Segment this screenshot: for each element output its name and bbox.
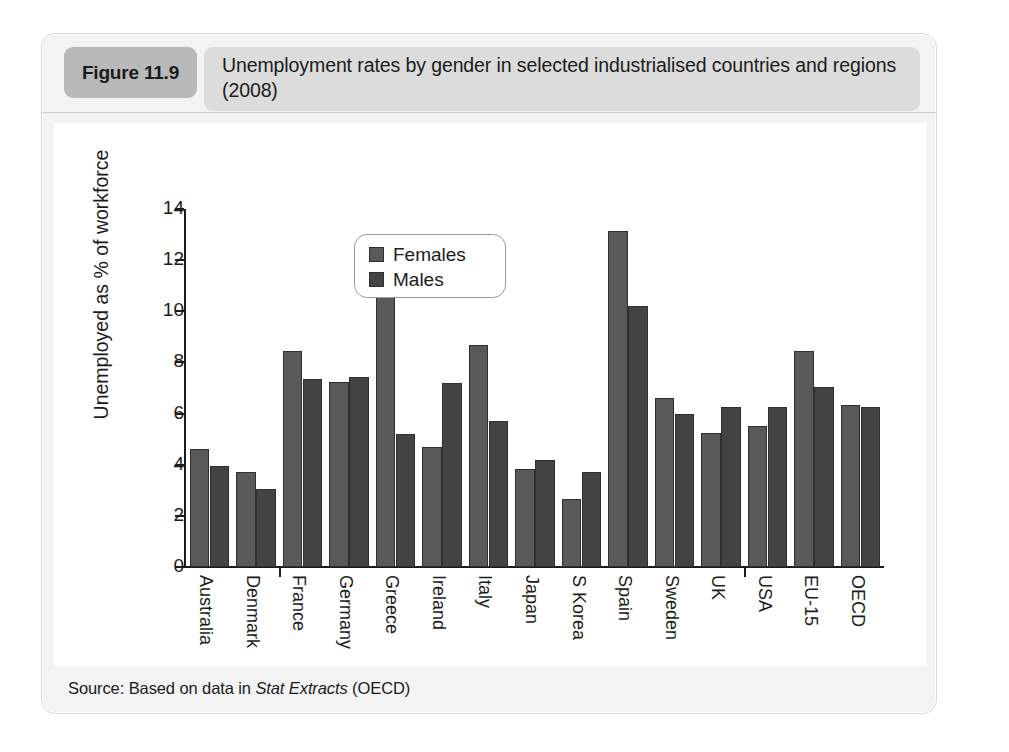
bar-male-greece [396, 434, 416, 567]
x-axis-label-ireland: Ireland [428, 575, 449, 630]
bar-male-sweden [675, 414, 695, 567]
legend-item-females: Females [369, 242, 505, 267]
bar-male-italy [489, 421, 509, 567]
bar-female-denmark [236, 472, 256, 567]
chart-legend: Females Males [354, 234, 506, 298]
bar-female-eu-15 [794, 351, 814, 567]
legend-item-males: Males [369, 267, 505, 292]
bar-male-s-korea [582, 472, 602, 567]
x-axis-label-eu-15: EU-15 [800, 575, 821, 626]
bar-male-spain [628, 306, 648, 567]
x-axis-label-oecd: OECD [847, 575, 868, 627]
x-axis-label-sweden: Sweden [661, 575, 682, 640]
bar-female-france [283, 351, 303, 567]
bar-female-oecd [841, 405, 861, 567]
figure-footer: Source: Based on data in Stat Extracts (… [42, 664, 936, 713]
legend-label-females: Females [393, 244, 466, 266]
x-axis-label-italy: Italy [474, 575, 495, 608]
y-axis-line [184, 209, 186, 568]
screenshot-page: Figure 11.9 Unemployment rates by gender… [0, 0, 1009, 752]
bar-female-japan [515, 469, 535, 567]
bar-female-italy [469, 345, 489, 567]
x-tick-mark [279, 568, 281, 577]
x-tick-mark [744, 568, 746, 577]
bar-female-usa [748, 426, 768, 567]
bar-male-australia [210, 466, 230, 567]
x-axis-label-france: France [288, 575, 309, 631]
source-publication: Stat Extracts [255, 679, 347, 697]
x-axis-label-uk: UK [707, 575, 728, 600]
bar-male-eu-15 [814, 387, 834, 567]
page-title: Unemployment rates by gender in selected… [222, 53, 902, 103]
chart-canvas: Unemployed as % of workforce 02468101214… [54, 123, 926, 666]
y-axis-title: Unemployed as % of workforce [90, 120, 113, 450]
bar-male-germany [349, 377, 369, 568]
figure-title-box: Unemployment rates by gender in selected… [204, 47, 920, 111]
legend-label-males: Males [393, 269, 444, 291]
source-suffix: (OECD) [348, 679, 411, 697]
x-axis-label-denmark: Denmark [242, 575, 263, 648]
bar-female-s-korea [562, 499, 582, 567]
y-tick-label: 0 [150, 555, 184, 577]
figure-number-badge: Figure 11.9 [64, 47, 197, 98]
y-tick-label: 10 [150, 299, 184, 321]
source-note: Source: Based on data in Stat Extracts (… [68, 679, 410, 698]
y-tick-label: 14 [150, 197, 184, 219]
bar-male-france [303, 379, 323, 567]
bar-female-sweden [655, 398, 675, 567]
bar-male-ireland [442, 383, 462, 567]
bar-chart-plot: Unemployed as % of workforce 02468101214… [54, 123, 926, 666]
bar-female-greece [376, 270, 396, 567]
y-tick-label: 12 [150, 248, 184, 270]
bar-female-germany [329, 382, 349, 567]
bar-male-oecd [861, 407, 881, 567]
bar-female-spain [608, 231, 628, 567]
source-prefix: Source: Based on data in [68, 679, 255, 697]
legend-swatch-males-icon [369, 272, 384, 287]
x-axis-label-japan: Japan [521, 575, 542, 624]
bar-female-uk [701, 433, 721, 567]
bar-male-denmark [256, 489, 276, 567]
y-tick-label: 6 [150, 402, 184, 424]
y-tick-label: 8 [150, 350, 184, 372]
bar-male-japan [535, 460, 555, 567]
figure-panel: Figure 11.9 Unemployment rates by gender… [41, 33, 937, 714]
x-axis-label-greece: Greece [381, 575, 402, 634]
y-tick-label: 2 [150, 504, 184, 526]
figure-header: Figure 11.9 Unemployment rates by gender… [42, 34, 936, 113]
x-axis-label-usa: USA [754, 575, 775, 612]
bar-female-australia [190, 449, 210, 567]
legend-swatch-females-icon [369, 247, 384, 262]
x-axis-label-australia: Australia [195, 575, 216, 645]
x-axis-label-germany: Germany [335, 575, 356, 649]
x-axis-label-s-korea: S Korea [568, 575, 589, 640]
x-axis-label-spain: Spain [614, 575, 635, 621]
bar-male-uk [721, 407, 741, 567]
y-tick-label: 4 [150, 453, 184, 475]
bar-female-ireland [422, 447, 442, 567]
bar-male-usa [768, 407, 788, 567]
